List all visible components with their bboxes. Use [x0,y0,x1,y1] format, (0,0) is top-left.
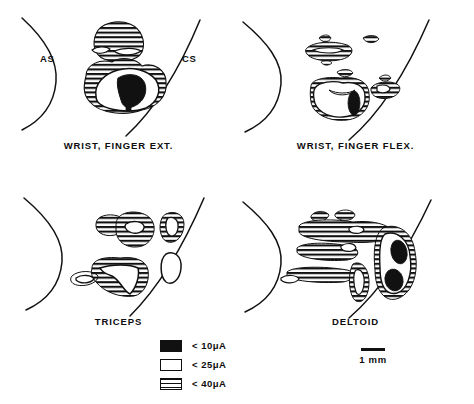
scale-bar: 1 mm [338,348,408,365]
legend: < 10μA < 25μA < 40μA [160,336,280,393]
panel-wrist-finger-ext: AS CS WRIST, FINGER EXT. [0,4,237,174]
legend-item: < 40μA [160,374,280,393]
scale-bar-label: 1 mm [338,354,408,365]
panel-title-deltoid: DELTOID [237,316,474,327]
panel-title-wrist-finger-ext: WRIST, FINGER EXT. [0,140,237,151]
sulcus-label-as: AS [40,53,54,64]
arcuate-sulcus-line [243,22,281,132]
figure-canvas: AS CS WRIST, FINGER EXT. [0,0,474,404]
map-wrist-finger-ext: AS CS [0,4,237,144]
threshold-zone-open [161,253,181,283]
threshold-zone-open [125,222,144,234]
threshold-zone-open [349,226,364,233]
threshold-zone-hatched [379,75,391,81]
scale-bar-line [361,348,385,351]
threshold-zone-solid [126,105,131,111]
threshold-zone-hatched [319,35,331,42]
threshold-zone-hatched [94,22,143,62]
legend-swatch-open-white [160,359,182,371]
threshold-zone-open [377,85,390,93]
map-triceps [0,180,237,320]
threshold-zone-open [281,275,299,282]
panel-title-wrist-finger-flex: WRIST, FINGER FLEX. [237,140,474,151]
threshold-zone-hatched [321,61,332,66]
threshold-zone-hatched [335,210,355,220]
arcuate-sulcus-line [22,18,56,130]
legend-item: < 25μA [160,355,280,374]
threshold-zone-open [114,48,141,54]
panel-triceps: TRICEPS [0,180,237,350]
legend-label: < 40μA [192,378,226,389]
sulcus-label-cs: CS [182,53,196,64]
threshold-zone-hatched [363,35,379,42]
panel-deltoid: DELTOID [237,180,474,350]
threshold-zone-open [354,270,364,295]
panel-wrist-finger-flex: WRIST, FINGER FLEX. [237,4,474,174]
threshold-zone-solid [348,91,360,115]
panel-title-triceps: TRICEPS [0,316,237,327]
threshold-zone-hatched [337,69,353,76]
map-deltoid [237,180,474,320]
legend-swatch-solid-black [160,340,182,352]
threshold-zone-open [76,275,94,282]
map-wrist-finger-flex [237,4,474,144]
legend-swatch-hatched [160,378,182,390]
legend-item: < 10μA [160,336,280,355]
legend-label: < 10μA [192,340,226,351]
threshold-zone-open [341,244,356,252]
arcuate-sulcus-line [243,202,281,312]
arcuate-sulcus-line [24,198,62,310]
threshold-zone-open [313,48,343,53]
legend-label: < 25μA [192,359,226,370]
threshold-zone-open [166,217,178,236]
